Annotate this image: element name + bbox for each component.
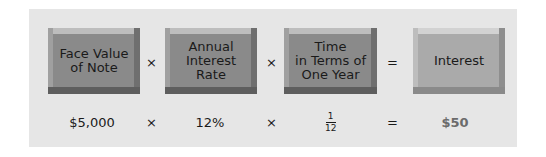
interest-label: Interest [434, 54, 484, 68]
interest-amount: $50 [430, 115, 480, 130]
multiply-operator: × [146, 55, 157, 70]
interest-rate-box: Annual Interest Rate [165, 28, 257, 94]
interest-box: Interest [413, 28, 505, 94]
multiply-operator: × [266, 55, 277, 70]
face-value-box: Face Value of Note [48, 28, 140, 94]
multiply-operator: × [146, 115, 157, 130]
fraction-numerator: 1 [328, 112, 334, 121]
face-value-label: Face Value of Note [59, 47, 128, 75]
fraction-denominator: 12 [325, 124, 336, 133]
time-fraction: 1 12 [325, 112, 336, 133]
time-box: Time in Terms of One Year [284, 28, 377, 94]
interest-rate-label: Annual Interest Rate [186, 40, 236, 82]
multiply-operator: × [266, 115, 277, 130]
rate-amount: 12% [185, 115, 235, 130]
equals-operator: = [387, 115, 398, 130]
face-value-amount: $5,000 [62, 115, 122, 130]
time-label: Time in Terms of One Year [295, 40, 366, 82]
equals-operator: = [387, 55, 398, 70]
